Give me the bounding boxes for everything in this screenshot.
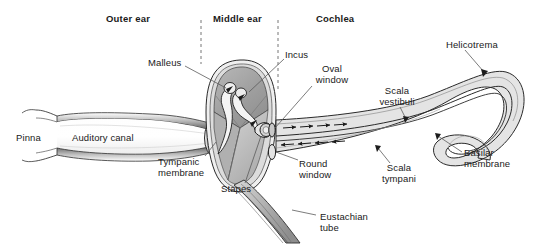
label-pinna: Pinna: [16, 133, 41, 144]
label-auditory-canal: Auditory canal: [72, 133, 134, 144]
label-round-window: Round window: [299, 159, 331, 180]
ear-anatomy-figure: Outer ear Middle ear Cochlea Pinna Audit…: [0, 0, 541, 252]
section-header-cochlea: Cochlea: [316, 14, 354, 25]
label-eustachian-tube: Eustachian tube: [320, 212, 368, 233]
section-header-middle-ear: Middle ear: [213, 14, 262, 25]
label-scala-vestibuli: Scala vestibuli: [371, 86, 423, 107]
label-stapes: Stapes: [221, 184, 251, 195]
round-window-shape: [268, 145, 275, 160]
section-header-outer-ear: Outer ear: [106, 14, 150, 25]
label-oval-window: Oval window: [310, 64, 354, 85]
label-incus: Incus: [285, 50, 308, 61]
label-helicotrema: Helicotrema: [446, 40, 498, 51]
label-malleus: Malleus: [148, 58, 181, 69]
label-basilar-membrane: Basilar membrane: [464, 148, 510, 169]
label-tympanic-membrane: Tympanic membrane: [158, 157, 204, 178]
label-scala-tympani: Scala tympani: [374, 163, 424, 184]
ear-diagram-artwork: [0, 0, 541, 252]
